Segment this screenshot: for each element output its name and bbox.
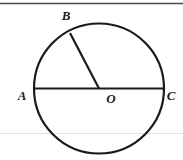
label-point-a: A (17, 88, 27, 103)
label-point-o: O (106, 91, 116, 106)
circle-diagram-figure: B A O C (0, 0, 183, 160)
label-point-c: C (167, 88, 176, 103)
label-point-b: B (61, 8, 71, 23)
diagram-canvas: B A O C (0, 0, 183, 160)
